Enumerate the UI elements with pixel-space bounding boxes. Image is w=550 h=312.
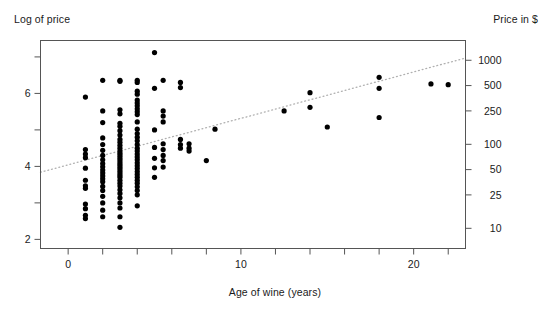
- data-point: [83, 206, 88, 211]
- data-point: [135, 119, 140, 124]
- data-point: [100, 179, 105, 184]
- plot-canvas: 246102550100250500100001020: [0, 0, 550, 312]
- data-point: [152, 127, 157, 132]
- data-point: [161, 153, 166, 158]
- data-point: [178, 146, 183, 151]
- data-point: [307, 105, 312, 110]
- data-point: [117, 225, 122, 230]
- x-tick-label: 10: [235, 258, 247, 270]
- data-point: [100, 148, 105, 153]
- data-point: [83, 216, 88, 221]
- data-point: [152, 145, 157, 150]
- y-tick-label-left: 4: [25, 160, 31, 172]
- data-point: [178, 137, 183, 142]
- data-point: [117, 111, 122, 116]
- data-point: [161, 158, 166, 163]
- y-tick-label-right: 250: [484, 105, 502, 117]
- data-point: [83, 155, 88, 160]
- data-point: [100, 78, 105, 83]
- data-point: [117, 214, 122, 219]
- data-point: [428, 81, 433, 86]
- y-tick-label-right: 10: [490, 222, 502, 234]
- data-point: [117, 79, 122, 84]
- data-point: [161, 165, 166, 170]
- data-point: [212, 127, 217, 132]
- data-point: [135, 92, 140, 97]
- data-point: [152, 156, 157, 161]
- axis-tick-labels-group: 246102550100250500100001020: [25, 54, 502, 269]
- data-point: [117, 205, 122, 210]
- data-points-group: [83, 50, 451, 230]
- data-point: [100, 108, 105, 113]
- data-point: [152, 175, 157, 180]
- y-tick-label-left: 6: [25, 87, 31, 99]
- data-point: [204, 158, 209, 163]
- x-tick-label: 20: [408, 258, 420, 270]
- data-point: [446, 82, 451, 87]
- data-point: [117, 200, 122, 205]
- data-point: [117, 195, 122, 200]
- data-point: [100, 194, 105, 199]
- data-point: [161, 108, 166, 113]
- y-tick-label-left: 2: [25, 233, 31, 245]
- data-point: [178, 80, 183, 85]
- y-tick-label-right: 25: [490, 189, 502, 201]
- y-tick-label-right: 1000: [478, 54, 502, 66]
- data-point: [135, 203, 140, 208]
- data-point: [83, 166, 88, 171]
- data-point: [100, 200, 105, 205]
- data-point: [83, 178, 88, 183]
- data-point: [161, 78, 166, 83]
- data-point: [83, 94, 88, 99]
- data-point: [282, 108, 287, 113]
- x-tick-label: 0: [65, 258, 71, 270]
- data-point: [100, 214, 105, 219]
- data-point: [135, 112, 140, 117]
- data-point: [152, 50, 157, 55]
- data-point: [100, 188, 105, 193]
- data-point: [377, 86, 382, 91]
- y-tick-label-right: 50: [490, 163, 502, 175]
- y-tick-label-right: 100: [484, 138, 502, 150]
- data-point: [100, 135, 105, 140]
- data-point: [186, 148, 191, 153]
- scatter-plot-figure: Log of price Price in $ Age of wine (yea…: [0, 0, 550, 312]
- y-tick-label-right: 500: [484, 79, 502, 91]
- data-point: [83, 186, 88, 191]
- data-point: [377, 115, 382, 120]
- data-point: [152, 86, 157, 91]
- data-point: [178, 85, 183, 90]
- data-point: [100, 120, 105, 125]
- data-point: [83, 201, 88, 206]
- data-point: [161, 119, 166, 124]
- data-point: [161, 113, 166, 118]
- data-point: [325, 124, 330, 129]
- data-point: [161, 141, 166, 146]
- data-point: [307, 90, 312, 95]
- data-point: [135, 192, 140, 197]
- data-point: [161, 147, 166, 152]
- data-point: [377, 75, 382, 80]
- data-point: [100, 142, 105, 147]
- data-point: [135, 80, 140, 85]
- data-point: [100, 208, 105, 213]
- data-point: [152, 165, 157, 170]
